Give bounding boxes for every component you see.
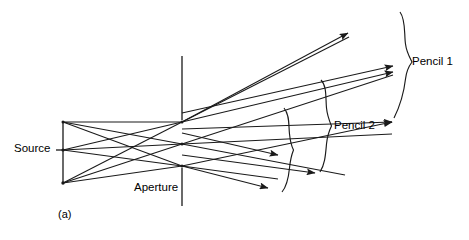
brace-pencil-3 bbox=[282, 108, 294, 192]
panel-label: (a) bbox=[58, 209, 71, 220]
ray-s1-a3 bbox=[63, 122, 182, 166]
ray-bundle bbox=[63, 33, 393, 188]
ray-arrow-far-upper bbox=[182, 66, 393, 113]
brace-pencil-2 bbox=[320, 80, 332, 172]
ray-s1-a2 bbox=[63, 122, 182, 144]
aperture-plane bbox=[181, 56, 184, 206]
source-plane bbox=[56, 121, 65, 185]
ray-s2-a2 bbox=[63, 144, 182, 150]
aperture-label: Aperture bbox=[134, 182, 178, 194]
ray-s2-a2-ext bbox=[182, 134, 392, 144]
ray-s1-a1-ext bbox=[182, 33, 348, 122]
brace-pencil-1 bbox=[394, 12, 412, 118]
ray-s2-a3-ext bbox=[182, 166, 278, 179]
ray-s3-a2-ext bbox=[182, 75, 393, 144]
ray-s3-a1-ext bbox=[182, 37, 349, 122]
ray-s2-a1 bbox=[63, 122, 182, 150]
optics-figure: Source Aperture Pencil 1 Pencil 2 (a) bbox=[0, 0, 469, 240]
pencil-1-label: Pencil 1 bbox=[412, 56, 453, 68]
ray-diagram bbox=[0, 0, 469, 240]
ray-arrow-mid-lower bbox=[182, 155, 315, 173]
pencil-2-label: Pencil 2 bbox=[334, 120, 375, 132]
ray-s1-a3-ext bbox=[182, 166, 268, 188]
source-label: Source bbox=[14, 143, 50, 155]
ray-arrow-mid-upper bbox=[182, 133, 278, 155]
